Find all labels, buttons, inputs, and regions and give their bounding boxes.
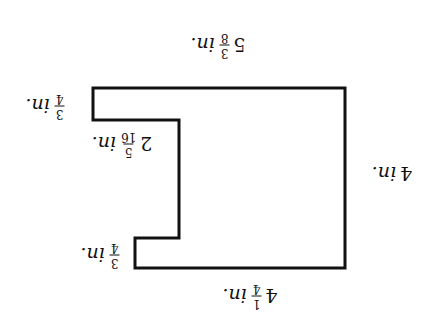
- unit: in.: [372, 163, 396, 185]
- numerator: 5: [124, 144, 134, 158]
- diagram-stage: 5 3 8 in. 3 4 in. 2 5 16 in. 4 in. 3 4 i…: [0, 0, 440, 328]
- numerator: 1: [252, 296, 262, 310]
- numerator: 3: [110, 255, 120, 269]
- label-bottom-length: 4 1 4 in.: [222, 283, 277, 310]
- whole-number: 5: [233, 34, 245, 56]
- fraction: 3 4: [110, 242, 120, 269]
- unit: in.: [190, 34, 214, 56]
- denominator: 4: [111, 242, 119, 255]
- label-notch-bottom-length: 3 4 in.: [81, 242, 120, 269]
- fraction: 3 4: [55, 93, 65, 120]
- whole-number: 4: [265, 285, 277, 307]
- fraction: 1 4: [252, 283, 262, 310]
- unit: in.: [92, 133, 116, 155]
- fraction: 3 8: [220, 32, 230, 59]
- denominator: 16: [121, 131, 136, 144]
- label-notch-top-length: 3 4 in.: [26, 93, 65, 120]
- label-top-length: 5 3 8 in.: [190, 32, 245, 59]
- unit: in.: [222, 285, 246, 307]
- denominator: 8: [221, 32, 229, 45]
- label-outer-side-length: 4 in.: [372, 163, 412, 185]
- numerator: 3: [55, 106, 65, 120]
- numerator: 3: [220, 45, 230, 59]
- fraction: 5 16: [121, 131, 136, 158]
- whole-number: 4: [400, 163, 412, 185]
- shape-outline: [93, 88, 345, 268]
- unit: in.: [81, 244, 105, 266]
- whole-number: 2: [140, 133, 152, 155]
- unit: in.: [26, 95, 50, 117]
- label-inner-side-length: 2 5 16 in.: [92, 131, 153, 158]
- denominator: 4: [56, 93, 64, 106]
- denominator: 4: [253, 283, 261, 296]
